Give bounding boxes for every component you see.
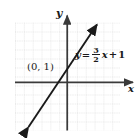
equation-lhs: y: [75, 50, 81, 60]
y-axis-label: y: [56, 8, 62, 19]
line-equation-label: y = 3 2 x + 1: [75, 46, 125, 64]
graph-figure: y x (0, 1) y = 3 2 x + 1: [0, 0, 140, 138]
equation-variable: x: [102, 50, 108, 60]
x-axis-label: x: [128, 84, 134, 94]
equation-equals-sign: =: [82, 50, 90, 60]
equation-slope-fraction: 3 2: [92, 46, 100, 64]
equation-intercept: 1: [118, 50, 125, 60]
equation-plus-sign: +: [109, 50, 117, 60]
y-intercept-point-label: (0, 1): [27, 62, 54, 72]
coordinate-plane: [0, 0, 140, 138]
fraction-numerator: 3: [92, 46, 100, 54]
fraction-denominator: 2: [92, 55, 100, 63]
